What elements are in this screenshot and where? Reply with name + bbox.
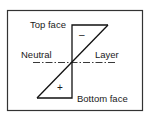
layer-label: Layer — [95, 49, 119, 60]
neutral-label: Neutral — [21, 49, 52, 60]
plus-sign: + — [57, 82, 63, 93]
bottom-face-label: Bottom face — [77, 93, 128, 104]
top-face-label: Top face — [30, 19, 66, 30]
minus-sign: – — [79, 29, 85, 40]
stress-distribution-diagram: Top face Neutral Layer Bottom face – + — [0, 0, 150, 118]
